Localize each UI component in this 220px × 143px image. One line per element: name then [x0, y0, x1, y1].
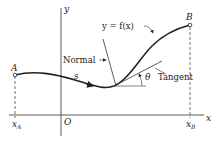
arc-length-label: s — [74, 71, 79, 81]
curve-diagram: y x O A B xA xB y = f(x) s Normal Tangen… — [0, 0, 220, 143]
x-b-label: xB — [186, 119, 196, 130]
tangent-label: Tangent — [158, 72, 193, 82]
y-axis-label: y — [63, 4, 70, 14]
angle-theta-label: θ — [145, 72, 151, 82]
point-a-label: A — [10, 63, 18, 73]
curve-label: y = f(x) — [101, 21, 134, 31]
origin-label: O — [64, 117, 72, 127]
tangent-line — [114, 61, 162, 86]
x-a-label: xA — [12, 119, 22, 130]
x-axis-label: x — [206, 113, 211, 123]
curve-label-leader — [144, 26, 153, 33]
normal-label: Normal — [63, 55, 96, 65]
point-b-marker — [188, 23, 192, 27]
point-b-label: B — [185, 12, 193, 22]
point-a-marker — [13, 73, 17, 77]
normal-line — [103, 39, 116, 86]
theta-arc — [139, 74, 142, 86]
